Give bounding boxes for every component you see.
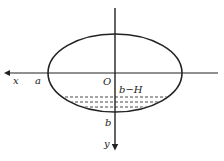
x-axis-label: x <box>13 75 19 86</box>
label-b-minus-h: b−H <box>119 84 143 95</box>
label-a: a <box>35 75 41 86</box>
origin-label: O <box>103 76 111 87</box>
diagram-canvas: x a O b−H b y <box>0 0 224 161</box>
label-b: b <box>105 117 111 128</box>
y-axis-label: y <box>103 138 110 149</box>
